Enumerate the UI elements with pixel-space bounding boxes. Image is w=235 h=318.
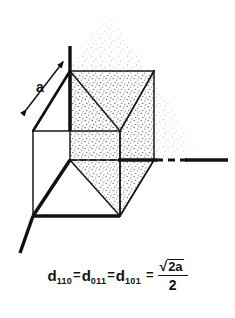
edge-length-arrow: [26, 62, 63, 110]
figure-root: a d110 = d011 = d101 = √2a: [0, 0, 235, 318]
cube-emphasis-left-depth: [33, 71, 70, 131]
cell-emphasis-strokes: [33, 71, 70, 131]
axis-diagonal-a: [20, 216, 33, 253]
unit-cell-diagram-svg: [0, 0, 235, 318]
axis-diagonal-a-body: [33, 160, 70, 216]
edge-length-arrow-line: [26, 62, 63, 110]
